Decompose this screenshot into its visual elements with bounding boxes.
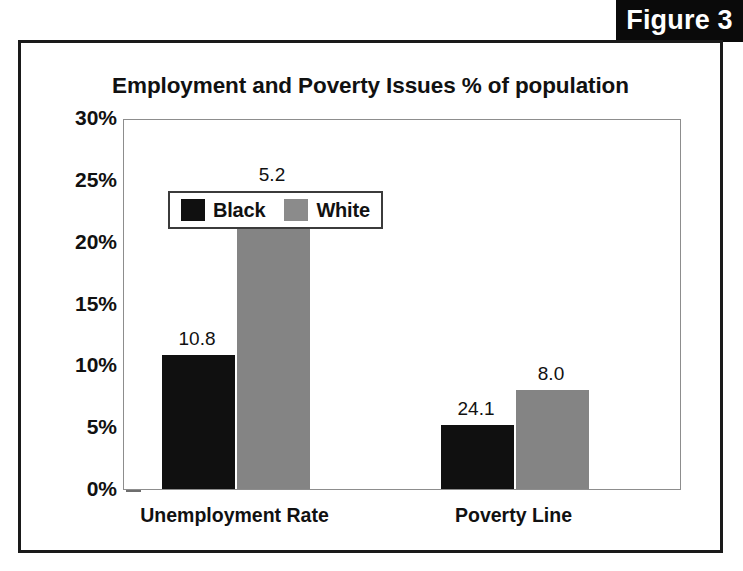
bar-white-poverty-line	[516, 390, 589, 489]
bar-value-label: 5.2	[226, 164, 319, 186]
y-axis-tick-label: 30%	[75, 106, 117, 130]
legend-item-white: White	[284, 199, 369, 222]
legend-label: White	[316, 199, 369, 222]
bar-value-label: 8.0	[505, 363, 598, 385]
bar-black-poverty-line	[441, 425, 514, 489]
x-axis-category-label: Poverty Line	[380, 504, 648, 527]
chart-frame: Employment and Poverty Issues % of popul…	[18, 40, 723, 553]
figure-number-badge: Figure 3	[616, 0, 743, 42]
legend-swatch-white	[284, 199, 308, 221]
y-axis-tick-label: 15%	[75, 292, 117, 316]
chart-title: Employment and Poverty Issues % of popul…	[21, 73, 720, 99]
y-axis-tick-label: 5%	[87, 415, 117, 439]
bar-value-label: 24.1	[430, 398, 523, 420]
y-axis-tick-mark	[126, 490, 141, 492]
legend-swatch-black	[181, 199, 205, 221]
x-axis-category-label: Unemployment Rate	[101, 504, 369, 527]
y-axis-tick-label: 10%	[75, 353, 117, 377]
legend-label: Black	[213, 199, 265, 222]
bar-value-label: 10.8	[151, 328, 244, 350]
chart-legend: BlackWhite	[168, 191, 383, 229]
plot-area	[123, 119, 681, 490]
y-axis-tick-label: 25%	[75, 168, 117, 192]
y-axis-tick-label: 0%	[87, 477, 117, 501]
bar-black-unemployment-rate	[162, 355, 235, 489]
y-axis-tick-label: 20%	[75, 230, 117, 254]
legend-item-black: Black	[181, 199, 265, 222]
bar-white-unemployment-rate	[237, 191, 310, 489]
